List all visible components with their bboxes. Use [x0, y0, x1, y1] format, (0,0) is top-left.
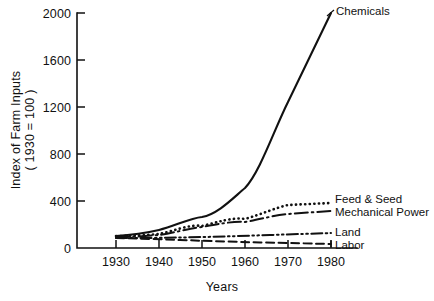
x-tick-label-1940: 1940: [145, 255, 173, 269]
series-label-chemicals: Chemicals: [336, 5, 390, 17]
y-tick-label-2000: 2000: [43, 7, 71, 21]
x-tick-label-1980: 1980: [317, 255, 345, 269]
x-tick-label-1930: 1930: [102, 255, 130, 269]
series-label-land: Land: [335, 226, 361, 238]
series-line-chemicals: [116, 13, 331, 236]
x-axis-title: Years: [206, 280, 239, 294]
series-line-labor: [116, 238, 331, 244]
y-tick-label-400: 400: [50, 195, 71, 209]
series-label-labor: Labor: [335, 239, 365, 251]
farm-inputs-line-chart: 2000 1600 1200 800 400 0 1930 1940 1950 …: [0, 0, 434, 301]
y-axis-title-line1: Index of Farm Inputs: [9, 71, 23, 190]
x-tick-label-1950: 1950: [188, 255, 216, 269]
y-axis-title-line2: ( 1930 = 100 ): [23, 90, 37, 171]
series-line-feed-and-seed: [116, 203, 331, 236]
y-tick-label-800: 800: [50, 148, 71, 162]
y-tick-label-1600: 1600: [43, 54, 71, 68]
x-tick-label-1960: 1960: [231, 255, 259, 269]
chart-canvas: 2000 1600 1200 800 400 0 1930 1940 1950 …: [0, 0, 434, 301]
y-tick-label-0: 0: [64, 242, 71, 256]
y-tick-label-1200: 1200: [43, 101, 71, 115]
series-label-mechanical-power: Mechanical Power: [335, 206, 429, 218]
series-label-feed-and-seed: Feed & Seed: [335, 193, 402, 205]
x-tick-label-1970: 1970: [274, 255, 302, 269]
